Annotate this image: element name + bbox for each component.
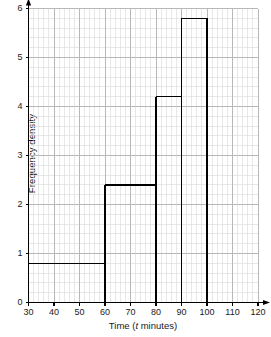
x-tick-label: 60 — [93, 308, 117, 317]
major-gridlines — [29, 9, 259, 303]
y-tick-label: 4 — [5, 102, 23, 111]
x-axis-arrow — [263, 300, 270, 305]
x-tick-label: 120 — [246, 308, 270, 317]
histogram-bar — [182, 18, 208, 302]
x-tick-label: 80 — [144, 308, 168, 317]
x-tick-label: 30 — [17, 308, 41, 317]
frequency-density-histogram: Frequency density Time (t minutes) 01234… — [0, 0, 271, 337]
y-tick-label: 0 — [5, 298, 23, 307]
x-tick-label: 90 — [170, 308, 194, 317]
axis-lines — [26, 0, 271, 306]
x-tick-label: 110 — [221, 308, 245, 317]
y-tick-label: 3 — [5, 151, 23, 160]
y-tick-label: 1 — [5, 249, 23, 258]
y-tick-label: 5 — [5, 53, 23, 62]
x-tick-label: 100 — [195, 308, 219, 317]
x-tick-label: 50 — [68, 308, 92, 317]
y-axis-arrow — [26, 0, 31, 6]
histogram-bars — [29, 18, 208, 302]
y-tick-label: 6 — [5, 4, 23, 13]
plot-area — [0, 0, 271, 337]
x-tick-label: 40 — [42, 308, 66, 317]
x-tick-label: 70 — [119, 308, 143, 317]
histogram-bar — [156, 97, 182, 303]
y-tick-label: 2 — [5, 200, 23, 209]
